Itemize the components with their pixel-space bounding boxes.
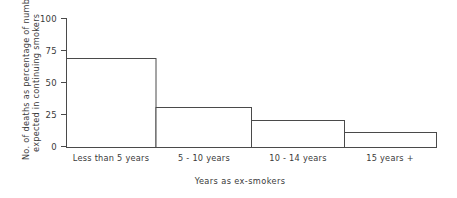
x-axis-title: Years as ex-smokers <box>194 176 286 186</box>
bar-5-10-years[interactable] <box>156 108 252 148</box>
bar-chart-svg: No. of deaths as percentage of number ex… <box>0 0 457 198</box>
y-axis-label-line1: No. of deaths as percentage of number <box>21 0 31 160</box>
bar-15-years-plus[interactable] <box>345 133 437 148</box>
y-axis-label-line2: expected in continuing smokers <box>31 14 41 152</box>
bar-10-14-years[interactable] <box>252 121 345 148</box>
bar-less-than-5-years[interactable] <box>67 59 157 148</box>
x-tick-label-5-10-years: 5 - 10 years <box>178 153 230 163</box>
x-tick-label-15-years-plus: 15 years + <box>366 153 414 163</box>
y-tick-label-100: 100 <box>40 14 57 24</box>
y-tick-label-50: 50 <box>46 78 57 88</box>
bars-group <box>67 59 437 148</box>
y-tick-label-75: 75 <box>46 46 57 56</box>
x-tick-label-10-14-years: 10 - 14 years <box>269 153 326 163</box>
y-axis-ticks <box>61 19 67 147</box>
x-tick-label-less-than-5-years: Less than 5 years <box>73 153 149 163</box>
chart-figure: No. of deaths as percentage of number ex… <box>0 0 457 198</box>
y-tick-label-25: 25 <box>46 110 57 120</box>
y-tick-label-0: 0 <box>51 142 57 152</box>
